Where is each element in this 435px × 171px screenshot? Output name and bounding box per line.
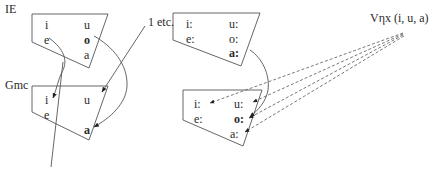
vnx-source-label: Vηx (i, u, a): [370, 12, 429, 24]
arrow-1etc-to-gmc-u: [102, 26, 145, 92]
dashed-arrow-to-o: [249, 35, 403, 118]
bottom-vowel-a-long: a:: [230, 128, 239, 140]
one-etc-annotation: 1 etc.: [148, 16, 174, 28]
top-vowel-u-long: u:: [229, 18, 238, 30]
top-vowel-i-long: i:: [186, 18, 193, 30]
dashed-arrow-to-u: [253, 34, 403, 102]
arrow-ie-o-to-gmc-a: [94, 36, 127, 127]
top-vowel-a-long: a:: [229, 47, 239, 59]
top-vowel-e-long: e:: [186, 33, 195, 45]
dashed-arrow-to-a: [245, 36, 404, 132]
gmc-label: Gmc: [5, 79, 28, 91]
bottom-vowel-u-long: u:: [234, 98, 243, 110]
arrow-top-a-to-bottom-o: [250, 50, 268, 117]
ie-label: IE: [5, 3, 16, 15]
ie-vowel-u: u: [84, 19, 90, 31]
gmc-vowel-i: i: [45, 94, 48, 106]
ie-vowel-o: o: [84, 34, 90, 46]
ie-vowel-i: i: [45, 19, 48, 31]
bottom-vowel-o-long: o:: [234, 113, 244, 125]
long-pointer-line: [51, 62, 63, 167]
top-vowel-o-long: o:: [229, 33, 238, 45]
clipped-caption: · · · · · · · · · · · · · · · · · · · · …: [10, 166, 340, 171]
diagram-canvas: [0, 0, 435, 171]
ie-vowel-a: a: [84, 49, 89, 61]
bottom-vowel-e-long: e:: [194, 113, 203, 125]
ie-vowel-e: e: [44, 34, 49, 46]
gmc-vowel-a: a: [84, 124, 90, 136]
gmc-vowel-u: u: [84, 94, 90, 106]
gmc-vowel-e: e: [44, 109, 49, 121]
dashed-arrow-to-i: [210, 33, 403, 103]
bottom-vowel-i-long: i:: [194, 98, 201, 110]
